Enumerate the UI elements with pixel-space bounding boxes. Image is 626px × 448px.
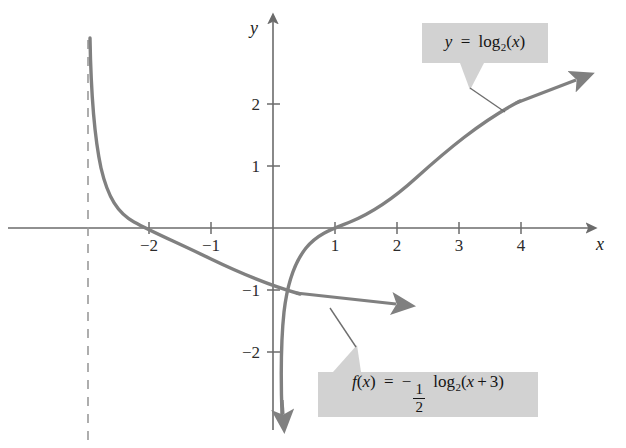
x-tick-label--2: −2 — [135, 236, 163, 256]
callout-f-minus: − — [402, 372, 412, 391]
callout-log-tail — [460, 63, 484, 90]
callout-log-arg-close: ) — [519, 32, 525, 51]
callout-f-tail — [333, 345, 361, 372]
x-tick-label--1: −1 — [197, 236, 225, 256]
x-tick-label-2: 2 — [385, 236, 409, 256]
callout-f-arg-close: ) — [498, 372, 504, 391]
callout-f-log-text: log — [433, 372, 455, 391]
callout-log-log-text: log — [479, 32, 501, 51]
callout-f-equals: = — [384, 372, 394, 391]
callout-f-fraction-denominator: 2 — [413, 400, 425, 415]
y-tick-label--2: −2 — [228, 343, 260, 363]
callout-log-equals: = — [461, 32, 471, 51]
x-axis-label: x — [596, 234, 604, 255]
callout-f-arg-var: x — [467, 372, 475, 391]
callout-f-fraction: 12 — [413, 382, 425, 416]
log2-curve-down-arrow — [282, 400, 283, 414]
y-tick-label-2: 2 — [236, 95, 260, 115]
f-of-x-curve-arrow — [296, 293, 396, 304]
x-tick-label-4: 4 — [509, 236, 533, 256]
callout-f-of-x-equation: f(x) = −12 log2(x+3) — [318, 372, 538, 417]
callout-log2-equation: y = log2(x) — [422, 23, 548, 63]
y-tick-label-1: 1 — [236, 157, 260, 177]
x-tick-label-3: 3 — [447, 236, 471, 256]
callout-f-arg-plus: + — [477, 372, 487, 391]
callout-f-close: ) — [370, 372, 376, 391]
callout-f-leader — [330, 308, 356, 347]
callout-f-arg: x — [363, 372, 371, 391]
logarithm-graph-figure: −2 −1 1 2 3 4 2 1 −1 −2 x y y = log2(x) … — [0, 0, 626, 448]
log2-curve — [281, 101, 520, 415]
x-tick-label-1: 1 — [323, 236, 347, 256]
callout-log-leader — [470, 88, 505, 112]
callout-f-fraction-numerator: 1 — [413, 382, 425, 397]
callout-f-arg-const: 3 — [490, 372, 499, 391]
callout-log-y-var: y — [445, 32, 453, 51]
y-tick-label--1: −1 — [228, 281, 260, 301]
log2-curve-arrow — [516, 80, 576, 103]
y-axis-label: y — [250, 18, 258, 39]
